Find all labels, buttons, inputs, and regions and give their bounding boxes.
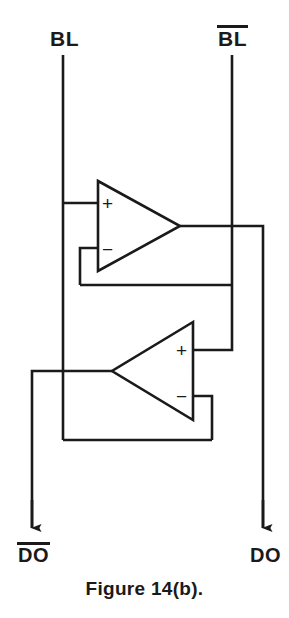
wire-lower-minus-stub xyxy=(193,396,212,440)
wire-lower-plus-input xyxy=(193,347,232,350)
label-bl-bar: BL xyxy=(218,26,247,49)
wire-lower-output-to-dobar xyxy=(32,371,112,528)
label-do-text: DO xyxy=(250,544,281,566)
label-bl: BL xyxy=(50,28,79,49)
label-do: DO xyxy=(250,545,281,565)
lower-amplifier-minus-sign: − xyxy=(176,387,187,406)
label-do-bar-text: DO xyxy=(18,543,49,565)
figure-container: + − + − BL BL DO DO Figure 14(b). xyxy=(0,0,289,618)
label-bl-bar-text: BL xyxy=(218,26,247,49)
label-do-bar: DO xyxy=(18,543,49,565)
label-bl-text: BL xyxy=(50,27,79,50)
circuit-schematic xyxy=(0,0,289,618)
wire-upper-minus-stub xyxy=(80,248,98,285)
upper-amplifier-plus-sign: + xyxy=(102,194,113,213)
figure-caption: Figure 14(b). xyxy=(0,578,289,600)
lower-amplifier-plus-sign: + xyxy=(176,341,187,360)
upper-amplifier-minus-sign: − xyxy=(102,240,113,259)
